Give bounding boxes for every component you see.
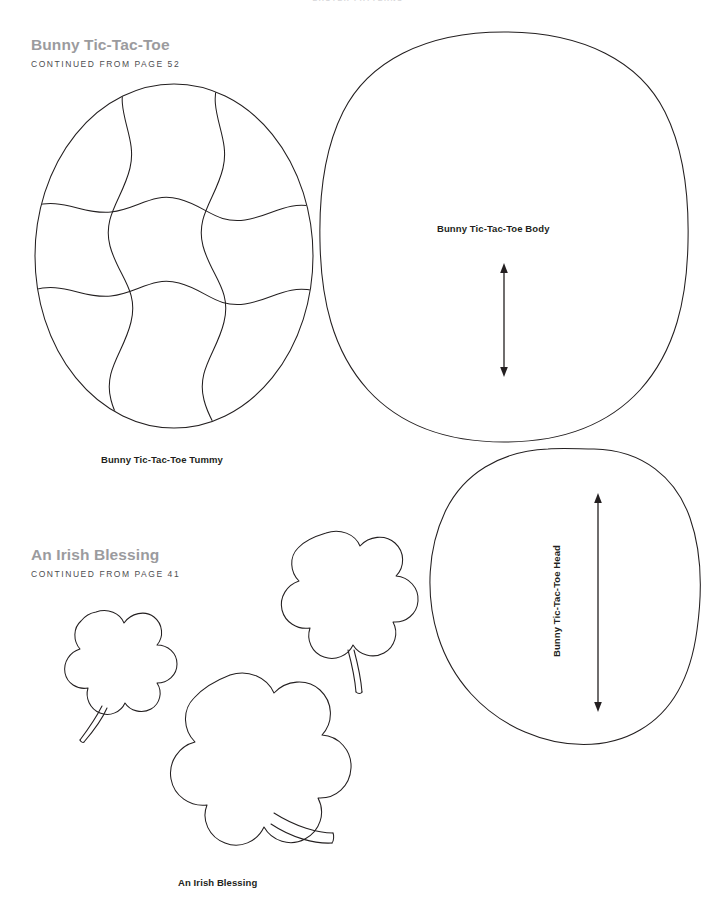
piece-tummy (30, 78, 316, 438)
shamrock-left-stem (80, 706, 102, 740)
shamrock-piece-caption: An Irish Blessing (178, 877, 257, 888)
body-grainline-arrow (500, 263, 508, 377)
shamrock-large-stem (271, 824, 332, 843)
piece-shamrock-large (171, 673, 352, 845)
head-outline (430, 449, 700, 745)
tummy-outline (35, 84, 313, 428)
body-outline (320, 32, 688, 442)
tummy-grid-line-h2 (30, 281, 316, 304)
tummy-grid-line-v2 (201, 78, 226, 438)
body-piece-label: Bunny Tic-Tac-Toe Body (437, 223, 550, 234)
tummy-piece-caption: Bunny Tic-Tac-Toe Tummy (101, 454, 223, 465)
shamrock-middle-outline (281, 531, 418, 658)
shamrock-left-outline (65, 611, 177, 715)
shamrock-left-stem-tip (80, 740, 84, 742)
section-header-bunny-tic-tac-toe: Bunny Tic-Tac-Toe CONTINUED FROM PAGE 52 (31, 36, 180, 69)
section-title: An Irish Blessing (31, 546, 180, 564)
section-continued-from: CONTINUED FROM PAGE 41 (31, 569, 180, 579)
head-grainline-arrow (594, 493, 602, 712)
shamrock-middle-stem-inner (354, 650, 362, 692)
piece-body (320, 32, 688, 442)
shamrock-middle-stem (348, 650, 356, 692)
section-header-an-irish-blessing: An Irish Blessing CONTINUED FROM PAGE 41 (31, 546, 180, 579)
shamrock-large-stem-tip (332, 833, 334, 843)
section-title: Bunny Tic-Tac-Toe (31, 36, 180, 54)
section-continued-from: CONTINUED FROM PAGE 52 (31, 59, 180, 69)
piece-shamrock-middle (281, 531, 418, 693)
running-head: EASTER PATTERNS (0, 0, 716, 2)
shamrock-large-outline (171, 673, 352, 845)
pattern-artwork-layer (0, 0, 716, 899)
tummy-grid-line-h1 (30, 197, 316, 220)
tummy-grid-line-v1 (108, 78, 133, 438)
piece-head (430, 449, 700, 745)
shamrock-left-stem-inner (84, 708, 107, 742)
piece-shamrock-left (65, 611, 177, 743)
head-piece-label: Bunny Tic-Tac-Toe Head (551, 545, 562, 657)
shamrock-middle-stem-tip (356, 692, 362, 694)
shamrock-large-stem-inner (274, 813, 333, 833)
